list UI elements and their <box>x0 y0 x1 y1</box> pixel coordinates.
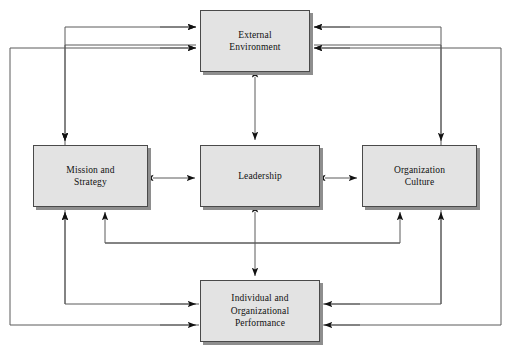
node-label-individual-and-organizational-performance: Individual and Organizational Performanc… <box>227 292 293 330</box>
node-leadership[interactable]: Leadership <box>200 145 320 207</box>
node-external-environment[interactable]: External Environment <box>200 10 310 72</box>
node-individual-and-organizational-performance[interactable]: Individual and Organizational Performanc… <box>200 280 320 342</box>
node-organization-culture[interactable]: Organization Culture <box>362 145 477 207</box>
conn-external-to-mission <box>65 48 196 141</box>
burke-litwin-diagram: External Environment Mission and Strateg… <box>0 0 511 360</box>
conn-mission-to-culture <box>105 212 400 243</box>
node-label-organization-culture: Organization Culture <box>390 164 449 189</box>
conn-culture-to-mission <box>105 212 400 243</box>
conn-ee-to-culture <box>314 27 441 141</box>
node-label-mission-and-strategy: Mission and Strategy <box>62 164 118 189</box>
conn-ee-to-mission <box>65 27 196 141</box>
conn-top-left-feed-down <box>65 27 199 141</box>
node-label-external-environment: External Environment <box>225 29 284 54</box>
node-label-leadership: Leadership <box>234 170 286 183</box>
node-mission-and-strategy[interactable]: Mission and Strategy <box>33 145 148 207</box>
